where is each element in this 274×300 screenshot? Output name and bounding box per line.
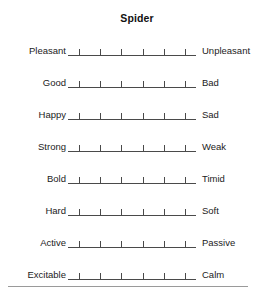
pole-label-right: Calm: [202, 269, 224, 280]
rating-axis[interactable]: [68, 236, 196, 248]
axis-tick[interactable]: [164, 49, 165, 56]
pole-label-right: Weak: [202, 141, 226, 152]
axis-tick[interactable]: [100, 81, 101, 88]
axis-tick[interactable]: [164, 273, 165, 280]
axis-tick[interactable]: [121, 209, 122, 216]
footer-divider: [8, 286, 248, 287]
axis-line: [68, 87, 196, 88]
scale-row: BoldTimid: [0, 162, 274, 194]
axis-tick[interactable]: [79, 273, 80, 280]
axis-tick[interactable]: [100, 209, 101, 216]
pole-label-left: Bold: [47, 173, 66, 184]
axis-tick[interactable]: [185, 241, 186, 248]
scale-row-list: PleasantUnpleasantGoodBadHappySadStrongW…: [0, 34, 274, 290]
rating-axis[interactable]: [68, 172, 196, 184]
axis-line: [68, 183, 196, 184]
pole-label-left: Pleasant: [29, 45, 66, 56]
pole-label-right: Timid: [202, 173, 225, 184]
pole-label-left: Excitable: [27, 269, 66, 280]
axis-tick[interactable]: [100, 145, 101, 152]
axis-tick[interactable]: [100, 241, 101, 248]
axis-tick[interactable]: [143, 209, 144, 216]
axis-tick[interactable]: [164, 81, 165, 88]
axis-tick[interactable]: [143, 81, 144, 88]
axis-tick[interactable]: [143, 113, 144, 120]
pole-label-left: Happy: [39, 109, 66, 120]
axis-tick[interactable]: [100, 177, 101, 184]
axis-tick[interactable]: [185, 177, 186, 184]
pole-label-left: Hard: [45, 205, 66, 216]
axis-tick[interactable]: [164, 145, 165, 152]
axis-tick[interactable]: [143, 49, 144, 56]
rating-axis[interactable]: [68, 140, 196, 152]
pole-label-right: Soft: [202, 205, 219, 216]
axis-line: [68, 119, 196, 120]
axis-tick[interactable]: [164, 241, 165, 248]
axis-line: [68, 279, 196, 280]
axis-tick[interactable]: [100, 113, 101, 120]
axis-tick[interactable]: [79, 209, 80, 216]
scale-row: GoodBad: [0, 66, 274, 98]
pole-label-left: Active: [40, 237, 66, 248]
axis-tick[interactable]: [185, 113, 186, 120]
pole-label-right: Passive: [202, 237, 235, 248]
rating-axis[interactable]: [68, 108, 196, 120]
axis-tick[interactable]: [121, 273, 122, 280]
rating-axis[interactable]: [68, 268, 196, 280]
axis-tick[interactable]: [164, 113, 165, 120]
pole-label-right: Sad: [202, 109, 219, 120]
axis-tick[interactable]: [143, 241, 144, 248]
axis-tick[interactable]: [121, 177, 122, 184]
axis-tick[interactable]: [143, 145, 144, 152]
axis-tick[interactable]: [164, 209, 165, 216]
axis-tick[interactable]: [185, 273, 186, 280]
rating-axis[interactable]: [68, 204, 196, 216]
axis-tick[interactable]: [121, 113, 122, 120]
pole-label-left: Strong: [38, 141, 66, 152]
scale-row: StrongWeak: [0, 130, 274, 162]
axis-tick[interactable]: [79, 81, 80, 88]
axis-tick[interactable]: [100, 273, 101, 280]
axis-tick[interactable]: [79, 177, 80, 184]
axis-tick[interactable]: [185, 49, 186, 56]
axis-tick[interactable]: [121, 81, 122, 88]
pole-label-right: Unpleasant: [202, 45, 250, 56]
axis-tick[interactable]: [79, 113, 80, 120]
axis-tick[interactable]: [79, 241, 80, 248]
axis-line: [68, 151, 196, 152]
axis-line: [68, 247, 196, 248]
chart-title: Spider: [0, 12, 274, 24]
scale-row: HappySad: [0, 98, 274, 130]
axis-tick[interactable]: [79, 145, 80, 152]
axis-tick[interactable]: [185, 145, 186, 152]
axis-line: [68, 215, 196, 216]
scale-row: ActivePassive: [0, 226, 274, 258]
pole-label-left: Good: [43, 77, 66, 88]
scale-row: PleasantUnpleasant: [0, 34, 274, 66]
axis-tick[interactable]: [100, 49, 101, 56]
axis-tick[interactable]: [143, 273, 144, 280]
axis-tick[interactable]: [185, 81, 186, 88]
axis-line: [68, 55, 196, 56]
axis-tick[interactable]: [143, 177, 144, 184]
axis-tick[interactable]: [164, 177, 165, 184]
axis-tick[interactable]: [185, 209, 186, 216]
axis-tick[interactable]: [121, 49, 122, 56]
axis-tick[interactable]: [121, 145, 122, 152]
semantic-differential-chart: Spider PleasantUnpleasantGoodBadHappySad…: [0, 0, 274, 300]
rating-axis[interactable]: [68, 76, 196, 88]
axis-tick[interactable]: [121, 241, 122, 248]
scale-row: HardSoft: [0, 194, 274, 226]
axis-tick[interactable]: [79, 49, 80, 56]
rating-axis[interactable]: [68, 44, 196, 56]
pole-label-right: Bad: [202, 77, 219, 88]
